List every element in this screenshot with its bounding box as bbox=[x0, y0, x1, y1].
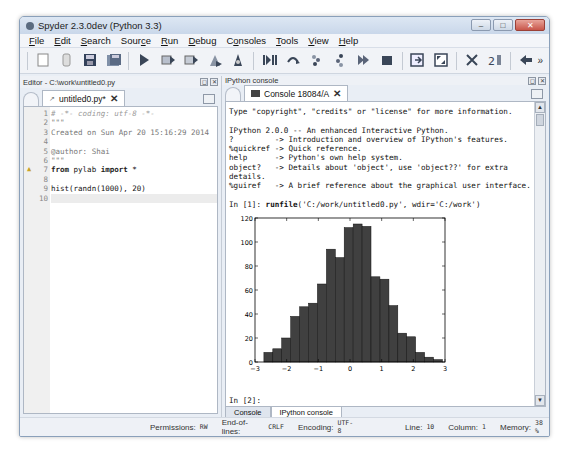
menu-source[interactable]: Source bbox=[116, 35, 156, 46]
save-file-button[interactable] bbox=[79, 50, 101, 72]
console-prompt[interactable]: In [2]: bbox=[229, 396, 531, 405]
code-line: @author: Shai bbox=[51, 147, 217, 156]
run-button[interactable] bbox=[133, 50, 155, 72]
code-editor[interactable]: 1234567▲8910 # -*- coding: utf-8 -*-"""C… bbox=[23, 106, 218, 414]
code-line: Created on Sun Apr 20 15:16:29 2014 bbox=[51, 128, 217, 137]
step-into-button[interactable] bbox=[305, 50, 327, 72]
svg-text:60: 60 bbox=[245, 287, 253, 295]
histogram-bar bbox=[380, 279, 389, 362]
pythonpath-icon: 2 bbox=[487, 52, 503, 70]
code-area[interactable]: # -*- coding: utf-8 -*-"""Created on Sun… bbox=[50, 107, 217, 413]
svg-text:1: 1 bbox=[380, 365, 384, 373]
console-line: ? -> Introduction and overview of IPytho… bbox=[229, 135, 531, 144]
svg-text:3: 3 bbox=[443, 365, 447, 373]
debug-button[interactable] bbox=[228, 50, 250, 72]
close-editor-pane-icon[interactable]: ✕ bbox=[210, 78, 218, 86]
histogram-bar bbox=[317, 284, 326, 362]
stop-button[interactable] bbox=[376, 50, 398, 72]
toolbar-overflow-button[interactable]: » bbox=[537, 55, 543, 66]
menu-file[interactable]: File bbox=[24, 35, 49, 46]
debug-icon bbox=[230, 52, 246, 70]
menu-edit[interactable]: Edit bbox=[49, 35, 75, 46]
histogram-bar bbox=[335, 258, 344, 362]
histogram-bar bbox=[300, 307, 309, 362]
tab-untitled0[interactable]: ↗ untitled0.py* ✕ bbox=[42, 90, 125, 106]
svg-text:20: 20 bbox=[245, 335, 253, 343]
fullscreen-button[interactable] bbox=[430, 50, 452, 72]
run-selection-button[interactable] bbox=[204, 50, 226, 72]
console-line: IPython 2.0.0 -- An enhanced Interactive… bbox=[229, 126, 531, 135]
run-cell-advance-button[interactable] bbox=[180, 50, 202, 72]
console-pane-header: IPython console ◻ ✕ bbox=[222, 76, 549, 85]
maximize-pane-button[interactable] bbox=[407, 50, 429, 72]
line-number: 6 bbox=[24, 156, 50, 165]
editor-pane-header: Editor - C:\work\untitled0.py ◻ ✕ bbox=[20, 76, 221, 88]
toolbar-separator bbox=[253, 52, 254, 70]
histogram-bar bbox=[398, 333, 407, 362]
histogram-bar bbox=[371, 277, 380, 362]
console-pane: IPython console ◻ ✕ Console 18084/A ✕ T bbox=[222, 76, 549, 417]
menu-debug[interactable]: Debug bbox=[183, 35, 221, 46]
console-line: object? -> Details about 'object', use '… bbox=[229, 163, 531, 172]
console-line bbox=[229, 191, 531, 200]
open-file-button[interactable] bbox=[56, 50, 78, 72]
undock-console-icon[interactable]: ◻ bbox=[528, 77, 536, 85]
code-line: """ bbox=[51, 118, 217, 127]
status-bar: Permissions: RW End-of-lines: CRLF Encod… bbox=[20, 417, 549, 436]
minimize-button[interactable]: – bbox=[471, 19, 491, 31]
menu-tools[interactable]: Tools bbox=[271, 35, 303, 46]
undock-editor-icon[interactable]: ◻ bbox=[200, 78, 208, 86]
continue-button[interactable] bbox=[352, 50, 374, 72]
line-number: 9 bbox=[24, 184, 50, 193]
preferences-button[interactable] bbox=[461, 50, 483, 72]
step-return-button[interactable] bbox=[329, 50, 351, 72]
save-file-icon bbox=[82, 52, 98, 70]
browse-tabs-button[interactable] bbox=[23, 92, 39, 106]
save-all-button[interactable] bbox=[103, 50, 125, 72]
back-button[interactable] bbox=[515, 50, 537, 72]
debug-continue-icon bbox=[261, 52, 277, 70]
scroll-down-icon[interactable]: ▼ bbox=[535, 395, 545, 406]
close-console-tab-icon[interactable]: ✕ bbox=[333, 88, 341, 99]
run-cell-button[interactable] bbox=[157, 50, 179, 72]
console-browse-tabs-button[interactable] bbox=[225, 87, 241, 101]
warning-icon[interactable]: ▲ bbox=[27, 165, 31, 173]
step-icon bbox=[285, 52, 301, 70]
menu-help[interactable]: Help bbox=[334, 35, 364, 46]
close-tab-icon[interactable]: ✕ bbox=[110, 93, 118, 104]
pythonpath-button[interactable]: 2 bbox=[484, 50, 506, 72]
tab-console[interactable]: Console 18084/A ✕ bbox=[244, 85, 348, 101]
permissions-value: RW bbox=[200, 423, 208, 431]
close-button[interactable]: ✕ bbox=[515, 19, 545, 31]
eol-value: CRLF bbox=[268, 423, 284, 431]
close-console-pane-icon[interactable]: ✕ bbox=[538, 77, 546, 85]
line-number: 8 bbox=[24, 175, 50, 184]
editor-options-menu-icon[interactable] bbox=[203, 94, 215, 104]
ipython-console[interactable]: Type "copyright", "credits" or "license"… bbox=[225, 101, 546, 407]
menu-consoles[interactable]: Consoles bbox=[221, 35, 271, 46]
step-button[interactable] bbox=[282, 50, 304, 72]
line-label: Line: bbox=[405, 423, 422, 432]
svg-text:−2: −2 bbox=[282, 365, 292, 373]
histogram-bar bbox=[344, 228, 353, 362]
histogram-bar bbox=[282, 338, 291, 362]
code-line: hist(randn(1000), 20) bbox=[51, 184, 217, 193]
console-options-menu-icon[interactable] bbox=[531, 89, 543, 99]
histogram-plot: 020406080100120−3−2−10123 bbox=[233, 213, 453, 388]
new-file-button[interactable] bbox=[32, 50, 54, 72]
maximize-button[interactable]: □ bbox=[493, 19, 513, 31]
menu-view[interactable]: View bbox=[303, 35, 333, 46]
code-line: from pylab import * bbox=[51, 165, 217, 174]
console-scrollbar[interactable]: ▲ ▼ bbox=[534, 102, 545, 406]
code-line: """ bbox=[51, 156, 217, 165]
menu-run[interactable]: Run bbox=[156, 35, 183, 46]
code-line bbox=[51, 137, 217, 146]
debug-continue-button[interactable] bbox=[258, 50, 280, 72]
scroll-thumb[interactable] bbox=[536, 114, 544, 126]
menu-search[interactable]: Search bbox=[76, 35, 116, 46]
scroll-up-icon[interactable]: ▲ bbox=[535, 102, 545, 113]
code-line: # -*- coding: utf-8 -*- bbox=[51, 109, 217, 118]
svg-text:120: 120 bbox=[241, 215, 253, 223]
run-selection-icon bbox=[207, 52, 223, 70]
window-title: Spyder 2.3.0dev (Python 3.3) bbox=[38, 20, 162, 31]
